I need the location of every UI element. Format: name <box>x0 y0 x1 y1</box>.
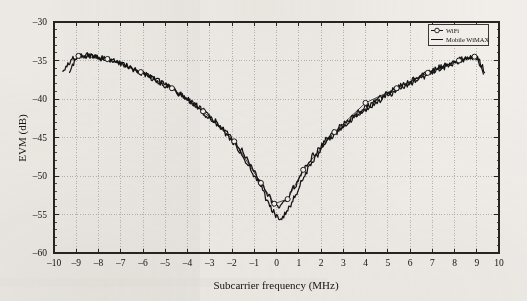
x-tick-label: 10 <box>494 258 504 268</box>
x-tick-label: –9 <box>71 258 82 268</box>
y-tick-label: –35 <box>32 56 48 66</box>
data-point-marker <box>272 201 277 206</box>
x-tick-label: –2 <box>226 258 237 268</box>
data-point-marker <box>201 109 206 114</box>
y-tick-label: –40 <box>32 94 48 104</box>
y-tick-label: –30 <box>32 17 48 27</box>
gridlines <box>54 22 499 253</box>
x-tick-label: –7 <box>115 258 126 268</box>
x-tick-label: –10 <box>46 258 62 268</box>
x-tick-label: –6 <box>137 258 148 268</box>
data-point-marker <box>232 139 237 144</box>
x-tick-label: 9 <box>474 258 479 268</box>
data-point-marker <box>105 56 110 61</box>
data-point-marker <box>456 58 461 63</box>
y-tick-label: –55 <box>32 210 48 220</box>
y-axis-label: EVM (dB) <box>16 114 29 162</box>
evm-vs-subcarrier-frequency-chart: –10–9–8–7–6–5–4–3–2–1012345678910 –60–55… <box>0 0 527 301</box>
x-tick-label: 0 <box>274 258 279 268</box>
data-point-marker <box>258 180 263 185</box>
x-tick-label: –5 <box>160 258 171 268</box>
data-point-marker <box>301 167 306 172</box>
y-axis-tick-labels: –60–55–50–45–40–35–30 <box>32 17 48 258</box>
data-point-marker <box>332 130 337 135</box>
x-tick-label: 3 <box>341 258 346 268</box>
x-tick-label: 6 <box>408 258 413 268</box>
y-tick-label: –50 <box>32 171 48 181</box>
x-tick-label: 8 <box>452 258 457 268</box>
x-tick-label: 2 <box>319 258 324 268</box>
x-tick-label: 4 <box>363 258 368 268</box>
legend-label: Mobile WiMAX <box>446 36 489 43</box>
data-point-marker <box>285 197 290 202</box>
data-point-marker <box>138 70 143 75</box>
chart-legend: WiFiMobile WiMAX <box>428 24 489 45</box>
chart-canvas: –10–9–8–7–6–5–4–3–2–1012345678910 –60–55… <box>0 0 527 301</box>
x-tick-label: –8 <box>93 258 104 268</box>
x-tick-label: 1 <box>296 258 301 268</box>
y-tick-label: –60 <box>32 248 48 258</box>
data-point-marker <box>472 54 477 59</box>
data-point-marker <box>363 100 368 105</box>
x-tick-label: –3 <box>204 258 215 268</box>
data-point-marker <box>169 86 174 91</box>
y-tick-label: –45 <box>32 133 48 143</box>
x-tick-label: 5 <box>385 258 390 268</box>
data-point-marker <box>76 53 81 58</box>
x-axis-label: Subcarrier frequency (MHz) <box>213 279 339 292</box>
data-point-marker <box>425 70 430 75</box>
x-axis-tick-labels: –10–9–8–7–6–5–4–3–2–1012345678910 <box>46 258 504 268</box>
x-tick-label: –4 <box>182 258 193 268</box>
data-point-marker <box>394 86 399 91</box>
legend-marker-sample <box>435 28 440 33</box>
x-tick-label: 7 <box>430 258 435 268</box>
series-line-mobile-wimax <box>63 54 485 220</box>
data-series <box>63 53 485 220</box>
x-tick-label: –1 <box>249 258 260 268</box>
legend-label: WiFi <box>446 27 459 34</box>
